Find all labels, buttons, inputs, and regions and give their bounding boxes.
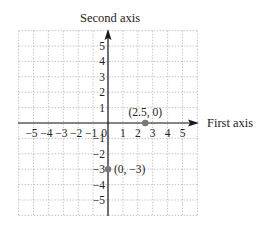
x-tick-label: 4 bbox=[165, 127, 171, 139]
x-tick-label: 1 bbox=[120, 127, 126, 139]
data-point-marker bbox=[142, 120, 149, 127]
y-tick-label: −5 bbox=[93, 194, 105, 206]
y-tick-label: −1 bbox=[93, 132, 105, 144]
x-tick-label: −3 bbox=[55, 127, 67, 139]
y-tick-label: 1 bbox=[99, 102, 105, 114]
y-tick-label: −4 bbox=[93, 179, 105, 191]
data-points: (2.5, 0)(0, −3) bbox=[105, 106, 162, 176]
x-tick-label: 3 bbox=[150, 127, 156, 139]
x-tick-labels: −5−4−3−2−1012345 bbox=[25, 127, 185, 139]
y-tick-label: 4 bbox=[99, 55, 105, 67]
y-tick-label: 5 bbox=[99, 40, 105, 52]
x-tick-label: −5 bbox=[25, 127, 37, 139]
y-tick-label: 2 bbox=[99, 86, 105, 98]
x-axis-title: First axis bbox=[207, 116, 253, 130]
y-tick-label: −2 bbox=[93, 148, 105, 160]
y-tick-label: −3 bbox=[93, 163, 105, 175]
x-tick-label: −4 bbox=[40, 127, 52, 139]
coordinate-plane: Second axis First axis −5−4−3−2−1012345 … bbox=[0, 0, 269, 232]
y-tick-label: 3 bbox=[99, 71, 105, 83]
x-tick-label: −2 bbox=[70, 127, 82, 139]
x-tick-label: 5 bbox=[180, 127, 186, 139]
data-point-marker bbox=[105, 166, 112, 173]
x-tick-label: 2 bbox=[135, 127, 141, 139]
data-point-label: (0, −3) bbox=[114, 163, 146, 176]
y-axis-title: Second axis bbox=[80, 11, 140, 25]
data-point-label: (2.5, 0) bbox=[128, 106, 162, 119]
